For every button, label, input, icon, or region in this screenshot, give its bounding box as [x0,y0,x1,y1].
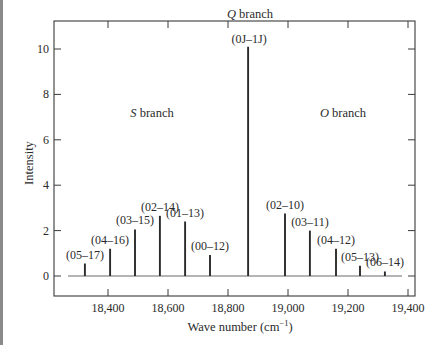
y-tick-label: 4 [43,178,49,192]
line-label: (02–10) [266,198,304,212]
branch-label: S branch [130,106,174,120]
y-tick-label: 6 [43,133,49,147]
y-tick-label: 10 [37,42,49,56]
x-tick-label: 18,400 [92,301,125,315]
line-label: (04–12) [317,233,355,247]
y-axis-title: Intensity [22,140,36,184]
y-tick-label: 2 [43,224,49,238]
x-tick-label: 18,800 [212,301,245,315]
line-label: (03–15) [116,213,154,227]
x-axis-title: Wave number (cm−1) [187,318,292,334]
x-axis: 18,40018,60018,80019,00019,20019,400 [92,21,425,315]
line-label: (01–13) [166,206,204,220]
line-label: (05–17) [66,248,104,262]
line-label: (03–11) [291,215,329,229]
spectrum-chart: 0246810 18,40018,60018,80019,00019,20019… [0,0,446,345]
x-tick-label: 19,200 [332,301,365,315]
line-labels: (05–17)(04–16)(03–15)(02–14)(01–13)(00–1… [66,32,404,270]
branch-label: O branch [320,106,367,120]
x-tick-label: 18,600 [152,301,185,315]
line-label: (04–16) [91,233,129,247]
branch-label: Q branch [227,7,274,21]
y-tick-label: 0 [43,269,49,283]
x-tick-label: 19,400 [392,301,425,315]
line-label: (0J–1J) [231,32,266,46]
x-tick-label: 19,000 [272,301,305,315]
y-tick-label: 8 [43,87,49,101]
line-label: (06–14) [366,255,404,269]
line-label: (00–12) [191,239,229,253]
